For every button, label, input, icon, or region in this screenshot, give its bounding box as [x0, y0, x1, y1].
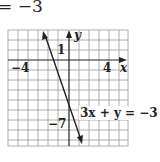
x-axis-label: x: [120, 61, 127, 75]
line-arrow-top-icon: [42, 31, 48, 40]
y-tick-neg-7: −7: [48, 117, 66, 131]
line-equation-label: 3x + y = −3: [79, 106, 159, 120]
y-axis-arrow-icon: [66, 30, 72, 38]
line-arrow-bottom-icon: [77, 135, 83, 144]
coordinate-graph: [0, 0, 160, 162]
y-tick-1: 1: [57, 43, 65, 57]
grid: [8, 30, 128, 146]
x-tick-4: 4: [103, 61, 111, 75]
y-axis-label: y: [74, 28, 81, 42]
x-tick-neg-4: −4: [11, 61, 29, 75]
